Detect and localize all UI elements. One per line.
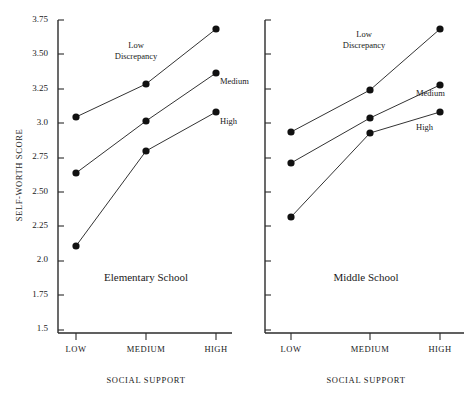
data-point (287, 213, 294, 220)
right-x-axis-title: SOCIAL SUPPORT (288, 375, 444, 385)
data-point (436, 25, 443, 32)
data-point (436, 108, 443, 115)
right-xtick-label-medium: MEDIUM (342, 344, 398, 354)
right-label-low-discrepancy: Low Discrepancy (328, 29, 400, 51)
right-label-low-discrepancy-line1: Low (356, 29, 372, 39)
data-point (366, 86, 373, 93)
right-xtick-label-high: HIGH (418, 344, 462, 354)
chart-figure: SELF-WORTH SCORE 3.75 3.50 3.25 3.0 2.75… (0, 0, 468, 396)
data-point (287, 128, 294, 135)
data-point (366, 114, 373, 121)
data-point (287, 159, 294, 166)
right-xtick-label-low: LOW (271, 344, 311, 354)
data-point (366, 129, 373, 136)
right-label-medium: Medium (416, 88, 462, 99)
right-panel-plot (0, 0, 468, 396)
right-label-high: High (416, 122, 456, 133)
right-label-low-discrepancy-line2: Discrepancy (343, 40, 385, 50)
right-panel-title: Middle School (288, 271, 444, 283)
